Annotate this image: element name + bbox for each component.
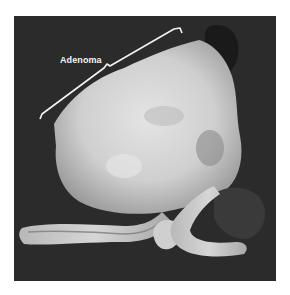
specimen-illustration xyxy=(14,16,276,281)
intestine-left xyxy=(19,212,170,245)
specimen-photo: Adenoma xyxy=(14,16,276,281)
dark-tissue xyxy=(214,188,265,239)
adenoma-label: Adenoma xyxy=(60,55,102,65)
